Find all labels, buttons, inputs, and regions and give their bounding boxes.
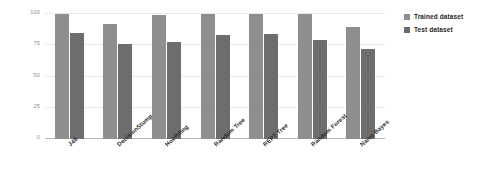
y-axis-tick-label: 25: [33, 104, 40, 110]
y-axis-tick-label: 75: [33, 42, 40, 48]
bar[interactable]: [118, 44, 132, 139]
x-axis-label-cell: Naïve Bayes: [336, 141, 385, 193]
bar-group: [288, 14, 337, 139]
legend-label: Test dataset: [414, 27, 453, 34]
bar[interactable]: [216, 35, 230, 139]
y-axis-tick-label: 50: [33, 73, 40, 79]
legend-swatch-icon: [404, 27, 410, 33]
bar[interactable]: [346, 27, 360, 140]
x-axis-label-cell: REPT Tree: [239, 141, 288, 193]
bar[interactable]: [55, 14, 69, 139]
bar-group: [191, 14, 240, 139]
legend-item[interactable]: Trained dataset: [404, 14, 463, 21]
bar[interactable]: [167, 42, 181, 140]
bar-chart: 0255075100 J48DecisionStumpHoeffdingRand…: [0, 0, 496, 196]
legend-label: Trained dataset: [414, 14, 463, 21]
legend-swatch-icon: [404, 14, 410, 20]
x-axis-label-cell: Hoeffding: [142, 141, 191, 193]
bar[interactable]: [70, 33, 84, 139]
y-axis-tick-label: 100: [30, 10, 40, 16]
bar[interactable]: [264, 34, 278, 139]
legend-item[interactable]: Test dataset: [404, 27, 463, 34]
bar-group: [45, 14, 94, 139]
bar[interactable]: [298, 14, 312, 139]
bar[interactable]: [361, 49, 375, 139]
bar[interactable]: [249, 14, 263, 139]
x-axis-label-cell: J48: [45, 141, 94, 193]
bar-group: [239, 14, 288, 139]
y-axis-tick-label: 0: [37, 135, 40, 141]
bar[interactable]: [152, 15, 166, 139]
bar[interactable]: [313, 40, 327, 139]
bar[interactable]: [201, 14, 215, 139]
x-axis-label-cell: Random Forest: [288, 141, 337, 193]
x-axis-label-cell: Random Tree: [191, 141, 240, 193]
bar[interactable]: [103, 24, 117, 139]
bar-group: [94, 14, 143, 139]
x-axis-labels: J48DecisionStumpHoeffdingRandom TreeREPT…: [45, 141, 385, 193]
x-axis-label-cell: DecisionStump: [94, 141, 143, 193]
chart-legend: Trained datasetTest dataset: [404, 14, 463, 33]
